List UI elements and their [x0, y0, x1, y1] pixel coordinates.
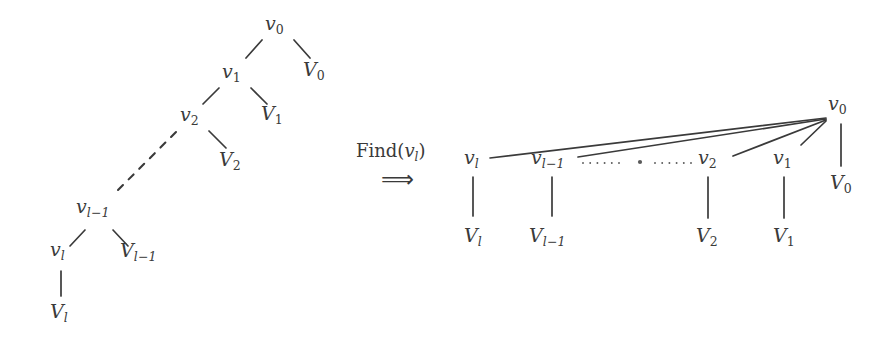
ellipsis-dot — [683, 162, 685, 164]
left-tree-node-v0: v0 — [265, 14, 284, 33]
node-subscript: l — [61, 248, 65, 263]
node-subscript: l−1 — [543, 234, 566, 249]
double-right-arrow-icon: ⟹ — [381, 168, 414, 191]
figure-edges-layer — [0, 0, 895, 345]
ellipsis-center-dot — [638, 160, 642, 164]
find-label-close: ) — [418, 140, 425, 161]
node-subscript: 2 — [709, 156, 717, 171]
left-tree-edge-v0-to-V0 — [294, 40, 310, 58]
node-base-symbol: v — [464, 146, 475, 168]
node-base-symbol: v — [531, 146, 542, 168]
node-subscript: 1 — [275, 112, 283, 127]
right-tree-node-Vl: Vl — [464, 226, 482, 245]
find-arg-sub: l — [415, 150, 419, 164]
left-tree-node-vl: vl — [50, 240, 65, 259]
node-subscript: 0 — [276, 22, 284, 37]
ellipsis-dot — [618, 162, 620, 164]
right-tree-node-Vl1: Vl−1 — [529, 226, 566, 245]
left-tree-node-v2: v2 — [180, 105, 199, 124]
node-subscript: 1 — [233, 70, 241, 85]
left-tree-edges — [61, 40, 310, 296]
node-subscript: l — [64, 310, 68, 325]
right-tree-node-V2: V2 — [696, 226, 718, 245]
left-tree-edge-vl1-to-vl — [70, 230, 85, 246]
node-subscript: l−1 — [542, 156, 565, 171]
ellipsis-dot — [582, 162, 584, 164]
find-arg-base: v — [404, 140, 414, 161]
node-subscript: 0 — [844, 181, 852, 196]
ellipsis-dot — [668, 162, 670, 164]
node-base-symbol: v — [773, 146, 784, 168]
ellipsis-dot — [690, 162, 692, 164]
node-subscript: l — [475, 156, 479, 171]
node-base-symbol: v — [265, 12, 276, 34]
left-tree-node-Vl1: Vl−1 — [120, 241, 157, 260]
left-tree-node-v1: v1 — [222, 62, 241, 81]
right-tree-node-vl: vl — [464, 148, 479, 167]
ellipsis-dot — [611, 162, 613, 164]
right-tree-node-V0: V0 — [830, 173, 852, 192]
node-base-symbol: V — [261, 102, 275, 124]
node-subscript: l — [478, 234, 482, 249]
node-base-symbol: v — [222, 60, 233, 82]
node-subscript: 0 — [317, 68, 325, 83]
right-tree-node-v2: v2 — [698, 148, 717, 167]
ellipsis-dot — [604, 162, 606, 164]
node-base-symbol: V — [303, 58, 317, 80]
node-base-symbol: v — [50, 238, 61, 260]
right-tree-node-v0: v0 — [828, 94, 847, 113]
left-tree-edge-v1-to-v2 — [203, 88, 219, 104]
node-subscript: 2 — [233, 158, 241, 173]
node-base-symbol: V — [50, 300, 64, 322]
ellipsis-dot — [661, 162, 663, 164]
node-base-symbol: v — [180, 103, 191, 125]
node-base-symbol: V — [120, 239, 134, 261]
left-tree-node-V1: V1 — [261, 104, 283, 123]
node-base-symbol: V — [830, 171, 844, 193]
ellipsis-dotted-connector — [582, 160, 692, 164]
node-subscript: 1 — [787, 234, 795, 249]
ellipsis-dot — [589, 162, 591, 164]
ellipsis-dot — [654, 162, 656, 164]
left-tree-node-vl1: vl−1 — [76, 197, 110, 216]
node-subscript: 2 — [710, 234, 718, 249]
find-label-text: Find( — [356, 140, 404, 161]
node-base-symbol: V — [464, 224, 478, 246]
node-subscript: 2 — [191, 113, 199, 128]
left-tree-edge-v2-to-V2 — [209, 131, 226, 148]
node-base-symbol: V — [696, 224, 710, 246]
node-base-symbol: v — [828, 92, 839, 114]
left-tree-node-V0: V0 — [303, 60, 325, 79]
node-subscript: 1 — [784, 156, 792, 171]
node-subscript: 0 — [839, 102, 847, 117]
left-tree-edge-v2-to-vl1 — [117, 132, 176, 191]
ellipsis-dot — [676, 162, 678, 164]
node-base-symbol: v — [698, 146, 709, 168]
ellipsis-dot — [596, 162, 598, 164]
node-base-symbol: v — [76, 195, 87, 217]
left-tree-edge-v0-to-v1 — [246, 40, 262, 58]
find-operation-figure: v0V0v1V1v2V2vl−1Vl−1vlVl Find(vl) ⟹ vlVl… — [0, 0, 895, 345]
right-tree-node-v1: v1 — [773, 148, 792, 167]
node-base-symbol: V — [219, 148, 233, 170]
left-tree-node-Vl: Vl — [50, 302, 68, 321]
find-operation-label: Find(vl) — [356, 142, 425, 160]
node-subscript: l−1 — [134, 249, 157, 264]
right-tree-node-vl1: vl−1 — [531, 148, 565, 167]
node-base-symbol: V — [773, 224, 787, 246]
node-base-symbol: V — [529, 224, 543, 246]
right-tree-node-V1: V1 — [773, 226, 795, 245]
node-subscript: l−1 — [87, 205, 110, 220]
left-tree-node-V2: V2 — [219, 150, 241, 169]
